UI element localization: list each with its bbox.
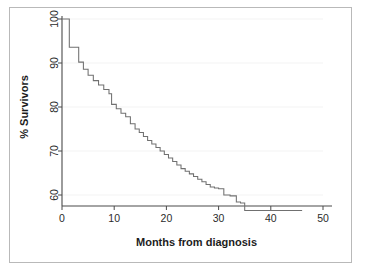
x-tick-label-50: 50 xyxy=(317,212,329,224)
x-axis-ticks: 01020304050 xyxy=(59,206,329,224)
axes xyxy=(62,16,332,206)
y-tick-label-100: 100 xyxy=(48,10,60,28)
x-tick-label-30: 30 xyxy=(213,212,225,224)
x-tick-label-10: 10 xyxy=(108,212,120,224)
y-tick-label-60: 60 xyxy=(48,189,60,201)
figure-border-frame: 6070809010001020304050Months from diagno… xyxy=(9,7,352,263)
y-tick-label-90: 90 xyxy=(48,57,60,69)
x-tick-label-0: 0 xyxy=(59,212,65,224)
gridlines xyxy=(62,19,323,195)
y-tick-label-70: 70 xyxy=(48,145,60,157)
y-axis-ticks: 60708090100 xyxy=(48,10,62,201)
y-tick-label-80: 80 xyxy=(48,101,60,113)
survival-curve-0 xyxy=(62,19,302,210)
y-axis-title: % Survivors xyxy=(18,75,30,139)
x-axis-title: Months from diagnosis xyxy=(136,236,257,248)
x-tick-label-40: 40 xyxy=(265,212,277,224)
survival-chart: 6070809010001020304050Months from diagno… xyxy=(10,8,351,262)
x-tick-label-20: 20 xyxy=(161,212,173,224)
figure-root: 6070809010001020304050Months from diagno… xyxy=(0,0,370,272)
